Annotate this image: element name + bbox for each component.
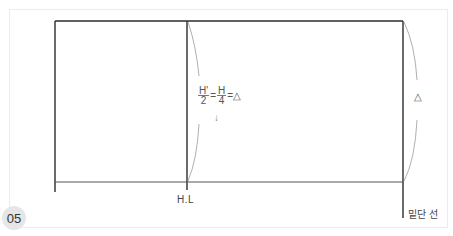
fraction-h-prime-over-2: H' 2 xyxy=(198,86,209,105)
hip-curve-upper xyxy=(188,22,199,76)
equals-delta: =△ xyxy=(227,90,241,101)
delta-label: △ xyxy=(414,91,422,102)
right-curve-lower xyxy=(404,120,417,181)
fraction-h-over-4: H 4 xyxy=(217,86,226,105)
hip-line-label: H.L xyxy=(177,194,194,205)
hip-curve-lower xyxy=(188,124,199,181)
figure-number-badge: 05 xyxy=(2,206,26,230)
hem-line-label: 밑단 선 xyxy=(408,206,438,221)
down-arrow-icon: ↓ xyxy=(214,112,219,123)
frac2-denominator: 4 xyxy=(218,96,226,105)
pattern-diagram xyxy=(0,0,453,236)
frac1-denominator: 2 xyxy=(200,96,208,105)
formula: H' 2 = H 4 =△ xyxy=(198,86,242,105)
right-curve-upper xyxy=(404,22,417,80)
equals-sign: = xyxy=(210,90,216,101)
